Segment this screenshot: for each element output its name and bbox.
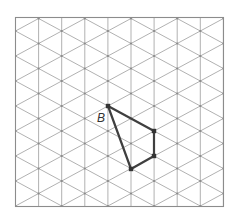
- grid-node: [107, 30, 109, 32]
- grid-node: [61, 55, 63, 57]
- shape-vertex: [106, 104, 110, 108]
- grid-node: [130, 42, 132, 44]
- grid-node: [130, 92, 132, 94]
- grid-node: [107, 80, 109, 82]
- grid-node: [130, 192, 132, 194]
- grid-diagonal-line: [16, 68, 224, 181]
- grid-node: [130, 142, 132, 144]
- grid-node: [176, 167, 178, 169]
- grid-node: [84, 142, 86, 144]
- vertex-labels: B: [97, 111, 105, 125]
- grid-node: [38, 42, 40, 44]
- grid-diagonal-line: [16, 193, 224, 217]
- grid-node: [38, 192, 40, 194]
- grid-node: [107, 155, 109, 157]
- grid-diagonal-line: [16, 93, 224, 206]
- grid-diagonal-line: [16, 156, 224, 217]
- grid-diagonal-line: [16, 0, 224, 19]
- grid-node: [176, 142, 178, 144]
- grid-node: [199, 155, 201, 157]
- grid-node: [153, 30, 155, 32]
- grid-node: [199, 30, 201, 32]
- grid-node: [84, 92, 86, 94]
- grid-node: [153, 80, 155, 82]
- grid-diagonal-line: [16, 118, 224, 217]
- grid-node: [84, 117, 86, 119]
- shape-vertex: [152, 154, 156, 158]
- isometric-grid-diagram: B: [0, 0, 236, 217]
- grid-diagonal-line: [16, 18, 224, 131]
- grid-diagonal-line: [16, 0, 224, 94]
- grid-diagonal-line: [16, 0, 224, 81]
- grid-lines: [16, 0, 224, 217]
- grid-node: [61, 105, 63, 107]
- grid-diagonal-line: [16, 0, 224, 6]
- grid-node: [61, 30, 63, 32]
- grid-node: [176, 42, 178, 44]
- grid-diagonal-line: [16, 0, 224, 106]
- grid-node: [38, 92, 40, 94]
- grid-node: [107, 180, 109, 182]
- shape-vertex: [152, 129, 156, 133]
- grid-node: [38, 167, 40, 169]
- grid-node: [84, 67, 86, 69]
- grid-node: [130, 67, 132, 69]
- grid-node: [199, 105, 201, 107]
- grid-node: [199, 180, 201, 182]
- grid-diagonal-line: [16, 6, 224, 119]
- grid-node: [176, 192, 178, 194]
- grid-node: [84, 42, 86, 44]
- grid-node: [84, 192, 86, 194]
- grid-diagonal-line: [16, 168, 224, 217]
- grid-node: [61, 130, 63, 132]
- grid-node: [61, 80, 63, 82]
- grid-node: [38, 117, 40, 119]
- grid-diagonal-line: [16, 181, 224, 217]
- shape-vertex: [129, 167, 133, 171]
- grid-diagonal-line: [16, 106, 224, 217]
- grid-node: [38, 67, 40, 69]
- grid-node: [199, 130, 201, 132]
- grid-node: [199, 80, 201, 82]
- grid-node: [153, 180, 155, 182]
- grid-diagonal-line: [16, 0, 224, 69]
- grid-diagonal-line: [16, 206, 224, 217]
- grid-node: [176, 117, 178, 119]
- grid-node: [107, 55, 109, 57]
- grid-node: [176, 92, 178, 94]
- grid-node: [61, 155, 63, 157]
- grid-diagonal-line: [16, 131, 224, 217]
- grid-node: [84, 167, 86, 169]
- grid-node: [176, 67, 178, 69]
- grid-node: [107, 130, 109, 132]
- vertex-label-b: B: [97, 111, 105, 125]
- grid-node: [38, 142, 40, 144]
- grid-node: [153, 55, 155, 57]
- grid-node: [153, 105, 155, 107]
- grid-node: [199, 55, 201, 57]
- grid-diagonal-line: [16, 31, 224, 144]
- grid-node: [61, 180, 63, 182]
